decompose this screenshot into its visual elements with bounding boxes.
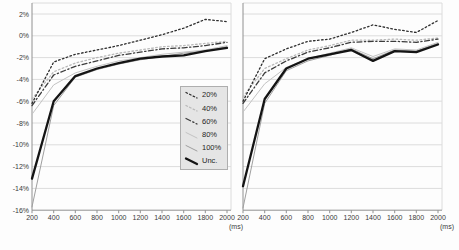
x-tick-label: 1600 <box>176 214 192 221</box>
legend-line-glyph <box>186 93 197 99</box>
legend-item-40pct: 40% <box>184 102 225 114</box>
chart-figure: 200400600800100012001400160018002000(ms)… <box>0 0 459 250</box>
x-tick-label: 800 <box>91 214 103 221</box>
legend-label: 40% <box>202 105 217 113</box>
legend-item-60pct: 60% <box>184 115 225 127</box>
legend-item-unc: Unc. <box>184 155 225 167</box>
legend-line-glyph <box>186 145 197 151</box>
x-tick-label: 1200 <box>344 214 360 221</box>
x-tick-label: 200 <box>26 214 38 221</box>
x-axis-unit-label: (ms) <box>440 223 454 231</box>
y-tick-label: 0% <box>19 32 29 39</box>
legend-line-glyph <box>186 158 197 164</box>
y-tick-label: -14% <box>13 185 29 192</box>
x-axis-unit-label: (ms) <box>229 223 243 231</box>
x-tick-label: 2000 <box>430 214 446 221</box>
series-line-60pct <box>243 39 438 103</box>
x-tick-label: 400 <box>48 214 60 221</box>
legend-line-glyph <box>186 132 197 138</box>
legend-line-glyph <box>186 119 197 125</box>
legend-item-20pct: 20% <box>184 89 225 101</box>
y-tick-label: -4% <box>17 76 29 83</box>
legend-line-glyph <box>186 106 197 112</box>
legend-line-sample-40pct <box>184 103 200 113</box>
x-tick-label: 1800 <box>198 214 214 221</box>
x-tick-label: 600 <box>69 214 81 221</box>
legend-item-80pct: 80% <box>184 129 225 141</box>
legend: 20%40%60%80%100%Unc. <box>180 86 228 170</box>
legend-label: 100% <box>202 144 221 152</box>
legend-line-sample-60pct <box>184 116 200 126</box>
x-tick-label: 2000 <box>219 214 235 221</box>
x-tick-label: 1000 <box>111 214 127 221</box>
x-tick-label: 200 <box>237 214 249 221</box>
x-tick-label: 600 <box>280 214 292 221</box>
series-line-unc <box>243 45 438 187</box>
legend-line-sample-20pct <box>184 90 200 100</box>
y-tick-label: -6% <box>17 98 29 105</box>
y-tick-label: -12% <box>13 163 29 170</box>
x-tick-label: 1600 <box>387 214 403 221</box>
x-tick-label: 1400 <box>154 214 170 221</box>
x-tick-label: 1800 <box>409 214 425 221</box>
chart-canvas: 200400600800100012001400160018002000(ms)… <box>0 0 459 250</box>
legend-label: 60% <box>202 118 217 126</box>
y-tick-label: 2% <box>19 11 29 18</box>
y-tick-label: -8% <box>17 120 29 127</box>
legend-line-sample-80pct <box>184 130 200 140</box>
x-tick-label: 800 <box>302 214 314 221</box>
legend-label: 20% <box>202 91 217 99</box>
y-tick-label: -2% <box>17 54 29 61</box>
x-tick-label: 1400 <box>365 214 381 221</box>
legend-line-sample-100pct <box>184 143 200 153</box>
legend-line-sample-unc <box>184 156 200 166</box>
y-tick-label: -10% <box>13 141 29 148</box>
x-tick-label: 1000 <box>322 214 338 221</box>
y-tick-label: -16% <box>13 207 29 214</box>
x-tick-label: 400 <box>259 214 271 221</box>
legend-label: Unc. <box>202 157 217 165</box>
legend-item-100pct: 100% <box>184 142 225 154</box>
x-tick-label: 1200 <box>133 214 149 221</box>
legend-label: 80% <box>202 131 217 139</box>
